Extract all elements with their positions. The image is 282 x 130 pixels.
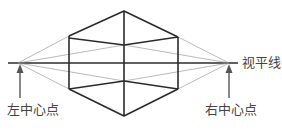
left-vanishing-point-label: 左中心点 [7, 103, 59, 117]
right-vp-arrow [226, 64, 233, 98]
left-vp-arrow [17, 64, 24, 98]
right-vanishing-point-label: 右中心点 [205, 103, 257, 117]
horizon-label: 视平线 [242, 56, 281, 70]
